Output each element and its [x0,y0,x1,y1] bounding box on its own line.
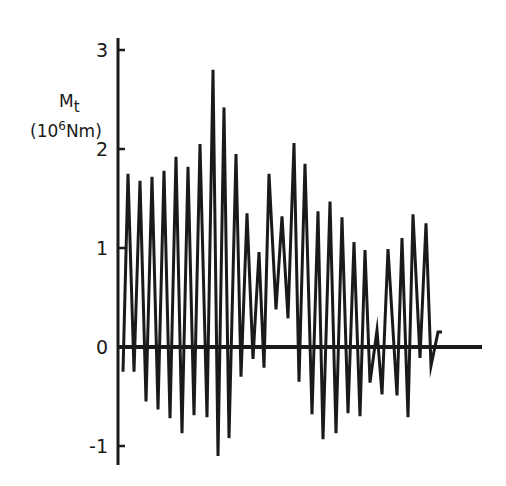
y-tick-label: -1 [89,435,108,457]
ylabel-symbol: M [59,91,74,111]
y-tick-label: 3 [96,39,108,61]
ylabel-unit-open: (10 [30,121,58,141]
y-axis-label: Mt (106Nm) [30,91,102,141]
y-tick-label: 2 [96,138,108,160]
svg-text:(106Nm): (106Nm) [30,119,102,141]
y-tick-label: 1 [96,237,108,259]
y-tick-label: 0 [96,336,108,358]
ylabel-subscript: t [74,98,80,116]
moment-trace-line [123,70,442,456]
y-tick-labels: -10123 [89,39,108,457]
ylabel-unit-close: Nm) [66,121,102,141]
moment-chart: -10123 Mt (106Nm) [0,0,506,486]
svg-text:Mt: Mt [59,91,80,116]
ylabel-unit-exp: 6 [58,119,66,133]
